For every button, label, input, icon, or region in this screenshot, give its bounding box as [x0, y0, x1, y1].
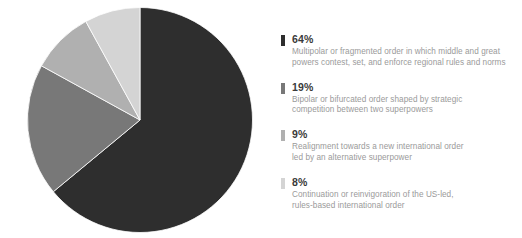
legend-item[interactable]: 19% Bipolar or bifurcated order shaped b…: [280, 81, 522, 116]
legend-swatch-icon: [281, 178, 285, 189]
legend: 64% Multipolar or fragmented order in wh…: [280, 33, 522, 211]
legend-percent: 9%: [292, 128, 522, 140]
legend-item[interactable]: 9% Realignment towards a new internation…: [280, 128, 522, 163]
pie-slice-group: [28, 8, 253, 233]
legend-percent: 8%: [292, 176, 522, 188]
legend-swatch-icon: [281, 130, 285, 141]
legend-item[interactable]: 64% Multipolar or fragmented order in wh…: [280, 33, 522, 68]
legend-percent: 64%: [292, 33, 522, 45]
legend-description: Realignment towards a new international …: [292, 142, 522, 163]
legend-percent: 19%: [292, 81, 522, 93]
legend-description: Continuation or reinvigoration of the US…: [292, 190, 522, 211]
pie-chart-figure: 64% Multipolar or fragmented order in wh…: [0, 0, 522, 238]
legend-item[interactable]: 8% Continuation or reinvigoration of the…: [280, 176, 522, 211]
pie-chart: [27, 7, 253, 233]
legend-description: Bipolar or bifurcated order shaped by st…: [292, 95, 522, 116]
pie-chart-svg: [27, 7, 253, 233]
legend-swatch-icon: [281, 83, 285, 94]
legend-swatch-icon: [281, 35, 285, 46]
legend-description: Multipolar or fragmented order in which …: [292, 47, 522, 68]
